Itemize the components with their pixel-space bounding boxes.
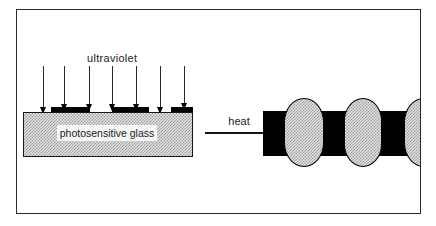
photosensitive-glass-label: photosensitive glass xyxy=(60,127,155,139)
arrow-shaft xyxy=(89,66,90,104)
arrow-shaft xyxy=(205,132,265,134)
arrow-shaft xyxy=(136,66,137,104)
arrow-shaft xyxy=(112,66,113,104)
diagram-frame: ultraviolet photosensitive glass heat xyxy=(16,9,421,214)
ultraviolet-label: ultraviolet xyxy=(87,52,137,64)
arrow-shaft xyxy=(160,66,161,107)
down-arrow-icon xyxy=(133,66,140,111)
down-arrow-icon xyxy=(86,66,93,111)
mask-segment xyxy=(171,107,193,112)
down-arrow-icon xyxy=(109,66,116,111)
down-arrow-icon xyxy=(40,66,47,114)
arrow-shaft xyxy=(43,66,44,107)
mask-segment xyxy=(112,107,149,112)
heat-label: heat xyxy=(215,115,263,127)
down-arrow-icon xyxy=(61,66,68,111)
down-arrow-icon xyxy=(181,66,188,110)
glass-capsule xyxy=(344,98,382,167)
glass-capsule xyxy=(404,98,421,167)
down-arrow-icon xyxy=(157,66,164,114)
glass-capsule xyxy=(284,98,324,167)
mask-segment xyxy=(51,107,90,112)
glass-label-patch: photosensitive glass xyxy=(57,125,157,141)
arrow-shaft xyxy=(184,66,185,103)
diagram-canvas: ultraviolet photosensitive glass heat xyxy=(0,0,436,226)
arrow-shaft xyxy=(64,66,65,104)
